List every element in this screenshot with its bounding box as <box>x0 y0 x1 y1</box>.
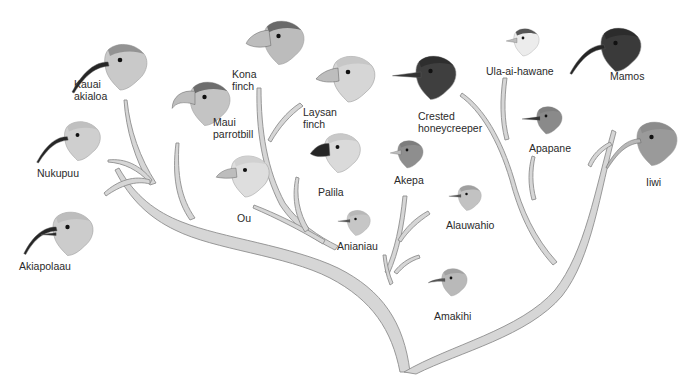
beak-icon <box>606 139 641 168</box>
beak-icon <box>310 144 330 157</box>
beak-icon <box>570 45 605 74</box>
species-label-ula-ai-hawane: Ula-ai-hawane <box>486 65 554 77</box>
beak-icon <box>316 68 339 82</box>
beak-icon <box>522 117 540 121</box>
bird-head-ula-ai-hawane <box>493 26 541 63</box>
eye-icon <box>354 218 357 221</box>
eye-icon <box>65 225 69 229</box>
bird-head-ou <box>200 152 272 208</box>
eye-icon <box>428 69 432 73</box>
eye-icon <box>336 145 340 149</box>
bird-head-amakihi <box>421 266 469 303</box>
species-label-akepa: Akepa <box>394 174 424 186</box>
species-label-nukupuu: Nukupuu <box>37 167 79 179</box>
eye-icon <box>522 37 525 40</box>
bird-head-laysan-finch <box>298 52 378 114</box>
bird-head-akepa <box>377 138 425 175</box>
species-label-maui-parrotbill: Maui parrotbill <box>213 116 253 140</box>
branch-apapane <box>529 156 536 200</box>
species-label-palila: Palila <box>318 186 344 198</box>
branch-amakihi-stub <box>394 255 420 274</box>
beak-icon <box>216 168 237 178</box>
beak-icon <box>246 30 271 47</box>
bird-head-anianiau <box>328 208 372 242</box>
species-label-kona-finch: Kona finch <box>232 68 257 92</box>
eye-icon <box>346 70 351 75</box>
beak-icon <box>506 38 517 43</box>
eye-icon <box>450 277 453 280</box>
beak-icon <box>24 227 57 255</box>
eye-icon <box>76 133 80 137</box>
branch-ula-ai-hawane <box>501 78 509 140</box>
beak-icon <box>37 137 68 163</box>
species-label-laysan-finch: Laysan finch <box>303 106 337 130</box>
bird-head-crested-honeycreeper <box>383 52 459 111</box>
species-label-iiwi: Iiwi <box>646 176 661 188</box>
bird-head-palila <box>295 130 363 183</box>
bird-head-nukupuu <box>35 118 103 171</box>
species-label-ou: Ou <box>237 212 251 224</box>
eye-icon <box>545 115 548 118</box>
bird-head-akiapolaau <box>20 208 96 267</box>
beak-icon <box>338 220 350 223</box>
species-label-kauai-akialoa: Kauai akialoa <box>74 78 107 102</box>
species-label-mamos: Mamos <box>610 70 644 82</box>
bird-head-alauwahio <box>439 183 483 217</box>
species-label-akiapolaau: Akiapolaau <box>19 260 71 272</box>
eye-icon <box>465 193 468 196</box>
beak-icon <box>393 72 421 78</box>
species-label-apapane: Apapane <box>529 142 571 154</box>
eye-icon <box>649 135 653 139</box>
beak-icon <box>449 195 461 198</box>
bird-head-apapane <box>516 104 564 141</box>
eye-icon <box>243 168 247 172</box>
eye-icon <box>406 149 409 152</box>
beak-icon <box>390 150 401 155</box>
eye-icon <box>276 34 280 38</box>
species-label-alauwahio: Alauwahio <box>446 219 494 231</box>
species-label-anianiau: Anianiau <box>337 240 378 252</box>
species-label-crested-honeycreeper: Crested honeycreeper <box>418 110 482 134</box>
branch-maui-parrotbill <box>175 143 195 220</box>
eye-icon <box>118 58 123 63</box>
eye-icon <box>202 95 206 99</box>
bird-head-iiwi <box>604 118 680 177</box>
species-label-amakihi: Amakihi <box>434 310 471 322</box>
eye-icon <box>613 41 617 45</box>
